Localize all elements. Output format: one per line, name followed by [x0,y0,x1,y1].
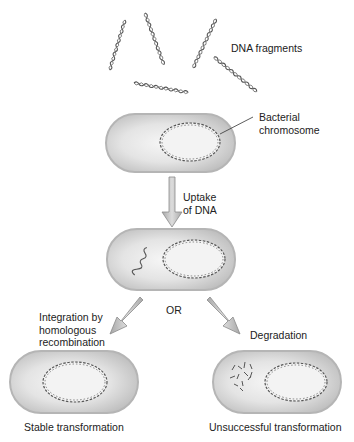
label-or: OR [166,304,182,317]
label-dna-fragments: DNA fragments [231,42,302,55]
bacterium-initial [106,114,253,172]
bacterium-uptake [107,229,235,290]
dna-fragment-icon [108,20,126,71]
dna-fragment-icon [192,18,217,68]
dna-fragment-icon [213,56,258,93]
arrow-integration-icon [110,297,143,334]
arrow-degradation-icon [207,297,240,334]
bacterium-stable [10,351,138,413]
dna-fragment-icon [134,82,189,95]
label-stable-transformation: Stable transformation [24,421,124,434]
label-degradation: Degradation [250,329,307,342]
label-integration: Integration by homologous recombination [39,311,105,349]
transformation-diagram [0,0,354,442]
label-bacterial-chromosome: Bacterial chromosome [259,111,320,136]
arrow-uptake-icon [162,177,182,227]
bacterium-degraded [213,351,341,413]
label-uptake: Uptake of DNA [183,191,217,216]
dna-fragment-icon [144,12,166,65]
label-unsuccessful-transformation: Unsuccessful transformation [209,421,341,434]
